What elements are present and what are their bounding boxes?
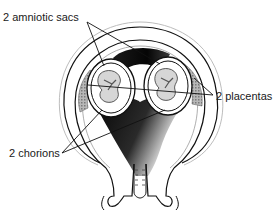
label-amniotic-sacs: 2 amniotic sacs [3, 11, 79, 23]
label-chorions: 2 chorions [9, 147, 60, 159]
label-placentas: 2 placentas [216, 90, 272, 102]
leader-chorion-left [62, 110, 102, 153]
amniotic-sac-right [144, 57, 192, 115]
fetus-right [155, 69, 178, 101]
uterus-illustration [0, 0, 278, 215]
twin-pregnancy-diagram: 2 amniotic sacs 2 placentas 2 chorions [0, 0, 278, 215]
